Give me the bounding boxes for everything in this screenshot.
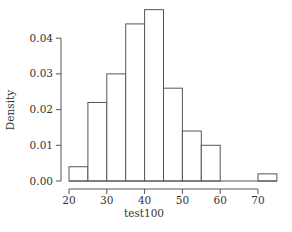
histogram-bar [88, 102, 107, 181]
histogram-bar [107, 74, 126, 181]
histogram-chart: 0.000.010.020.030.04 203040506070 test10… [0, 0, 292, 232]
x-tick-label: 60 [214, 194, 227, 206]
x-tick-label: 30 [100, 194, 113, 206]
y-axis: 0.000.010.020.030.04 [30, 32, 61, 187]
histogram-bar [164, 88, 183, 181]
y-tick-label: 0.00 [30, 175, 53, 187]
histogram-bars [69, 10, 277, 181]
y-tick-label: 0.04 [30, 32, 54, 44]
y-tick-label: 0.01 [30, 139, 53, 151]
x-axis-label: test100 [124, 207, 164, 219]
histogram-bar [258, 174, 277, 181]
y-axis-label: Density [4, 90, 16, 130]
histogram-bar [126, 24, 145, 181]
x-tick-label: 70 [251, 194, 264, 206]
histogram-plot: 0.000.010.020.030.04 203040506070 test10… [0, 0, 292, 232]
histogram-bar [201, 145, 220, 181]
y-tick-label: 0.02 [30, 103, 53, 115]
y-tick-label: 0.03 [30, 67, 53, 79]
x-tick-label: 20 [62, 194, 75, 206]
histogram-bar [145, 10, 164, 181]
histogram-bar [182, 131, 201, 181]
x-tick-label: 40 [138, 194, 151, 206]
histogram-bar [69, 167, 88, 181]
x-axis: 203040506070 [62, 189, 264, 206]
x-tick-label: 50 [176, 194, 189, 206]
